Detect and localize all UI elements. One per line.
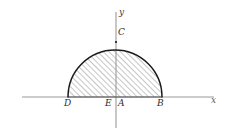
point-label-A: A	[118, 99, 125, 108]
point-marker-C	[115, 41, 117, 43]
point-label-C: C	[118, 28, 125, 37]
figure-canvas	[0, 0, 236, 140]
point-markers	[115, 41, 117, 43]
geometry-figure: y x C D E A B	[0, 0, 236, 140]
x-axis-label: x	[211, 96, 216, 105]
semicircle-hatch-fill	[68, 50, 162, 97]
shaded-region	[68, 50, 162, 97]
y-axis-label: y	[119, 8, 124, 17]
point-label-D: D	[64, 99, 71, 108]
point-label-B: B	[157, 99, 164, 108]
point-label-E: E	[105, 99, 112, 108]
